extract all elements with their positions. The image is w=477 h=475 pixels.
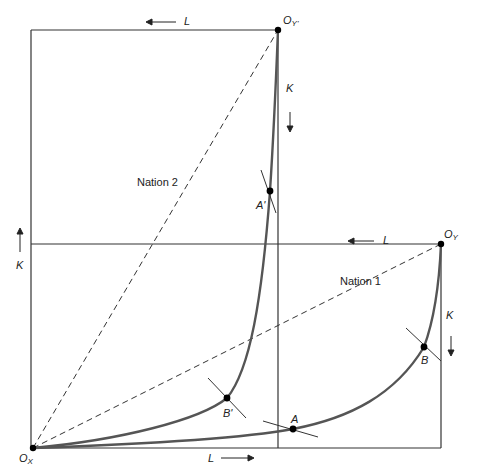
oy-prime-main: O — [283, 14, 292, 26]
contract-curves — [33, 30, 441, 448]
edgeworth-box-diagram — [0, 0, 477, 475]
ox-sub: X — [28, 457, 33, 466]
dashed-diagonals — [33, 30, 441, 448]
label-left-k: K — [16, 260, 23, 271]
label-oy-prime: OY' — [283, 15, 298, 28]
label-oy: OY — [444, 229, 458, 242]
label-b: B — [421, 355, 428, 366]
label-nation1: Nation 1 — [340, 276, 381, 287]
label-top-l: L — [184, 16, 190, 27]
tangent-lines — [208, 170, 441, 437]
point-oy-prime — [275, 27, 281, 33]
label-a: A — [291, 414, 298, 425]
label-bottom-l: L — [208, 453, 214, 464]
label-b-prime: B' — [223, 408, 232, 419]
point-a — [290, 426, 297, 433]
label-a-prime: A' — [256, 200, 265, 211]
oy-main: O — [444, 228, 453, 240]
point-b-prime — [224, 395, 231, 402]
diagonal-ox-oyprime — [33, 30, 278, 448]
point-b — [421, 344, 428, 351]
label-ox: OX — [19, 453, 33, 466]
point-a-prime — [267, 188, 274, 195]
oy-prime-sub: Y' — [292, 19, 299, 28]
ox-main: O — [19, 452, 28, 464]
label-right-k: K — [446, 310, 453, 321]
point-ox — [30, 445, 36, 451]
oy-sub: Y — [453, 233, 458, 242]
label-top-k: K — [286, 83, 293, 94]
label-nation2: Nation 2 — [137, 177, 178, 188]
label-mid-l: L — [383, 235, 389, 246]
